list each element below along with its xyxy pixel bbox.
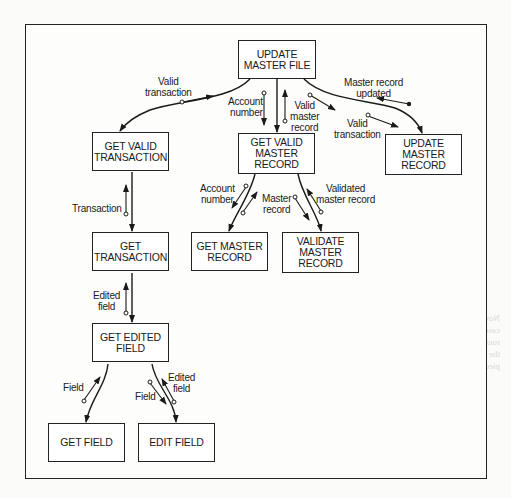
module-update-master-record: UPDATE MASTER RECORD xyxy=(385,134,462,175)
couple-label-edited-field: Edited field xyxy=(93,290,120,312)
couple-label-validated-master-record: Validated master record xyxy=(316,183,375,205)
couple-label-account-number: Account number xyxy=(228,96,263,118)
couple-label-transaction: Transaction xyxy=(72,203,122,214)
couple-label-valid-master-record: Valid master record xyxy=(290,100,319,133)
couple-label-master-record-updated: Master record updated xyxy=(344,77,403,99)
couple-label-field: Field xyxy=(63,382,84,393)
couple-label-account-number-2: Account number xyxy=(200,183,235,205)
module-get-field: GET FIELD xyxy=(48,423,125,462)
couple-label-valid-transaction: Valid transaction xyxy=(145,76,192,98)
module-get-transaction: GET TRANSACTION xyxy=(92,232,169,271)
module-get-valid-transaction: GET VALID TRANSACTION xyxy=(92,132,169,171)
couple-label-valid-transaction-2: Valid transaction xyxy=(334,118,381,140)
couple-label-master-record: Master record xyxy=(262,193,291,215)
module-validate-master-record: VALIDATE MASTER RECORD xyxy=(282,232,359,273)
module-get-master-record: GET MASTER RECORD xyxy=(191,232,268,271)
couple-label-edited-field-2: Edited field xyxy=(168,372,195,394)
module-get-valid-master-record: GET VALID MASTER RECORD xyxy=(238,133,315,174)
module-edit-field: EDIT FIELD xyxy=(138,423,215,462)
module-update-master-file: UPDATE MASTER FILE xyxy=(238,40,316,79)
module-get-edited-field: GET EDITED FIELD xyxy=(92,323,169,362)
couple-label-field-2: Field xyxy=(135,391,156,402)
control-flag-dot xyxy=(407,102,411,106)
